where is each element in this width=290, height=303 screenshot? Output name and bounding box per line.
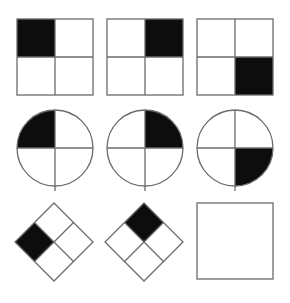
circle-black-top-left [11, 104, 99, 192]
square-black-top-left [13, 15, 97, 99]
circle-black-top-right [101, 104, 189, 192]
square-black-top-right [103, 15, 187, 99]
diamond-black-west [11, 199, 97, 285]
diamond-black-north [101, 199, 187, 285]
answer-blank-square[interactable] [193, 199, 277, 283]
square-black-bottom-right [193, 15, 277, 99]
circle-black-bottom-right [191, 104, 279, 192]
matrix-puzzle [0, 0, 290, 303]
